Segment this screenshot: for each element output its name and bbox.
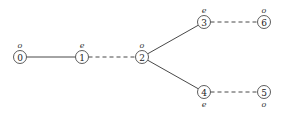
node-label: 5 (261, 88, 267, 98)
parity-label: o (140, 41, 145, 50)
node-label: 6 (261, 18, 267, 28)
node-label: 4 (201, 88, 207, 98)
node-label: 3 (201, 18, 207, 28)
edge-2-3 (148, 25, 199, 54)
parity-label: e (80, 41, 85, 50)
node-label: 0 (17, 53, 23, 63)
parity-label: e (202, 6, 207, 15)
node-6: 6o (258, 6, 271, 29)
parity-label: e (202, 100, 207, 109)
node-label: 1 (79, 53, 85, 63)
node-4: 4e (198, 86, 211, 109)
node-3: 3e (198, 6, 211, 29)
graph-canvas: 0o1e2o3e6o4e5o (0, 0, 286, 114)
parity-label: o (262, 100, 267, 109)
parity-label: o (18, 41, 23, 50)
edge-2-4 (148, 60, 199, 89)
parity-label: o (262, 6, 267, 15)
node-label: 2 (139, 53, 145, 63)
node-2: 2o (136, 41, 149, 64)
node-0: 0o (14, 41, 27, 64)
node-1: 1e (76, 41, 89, 64)
node-5: 5o (258, 86, 271, 109)
